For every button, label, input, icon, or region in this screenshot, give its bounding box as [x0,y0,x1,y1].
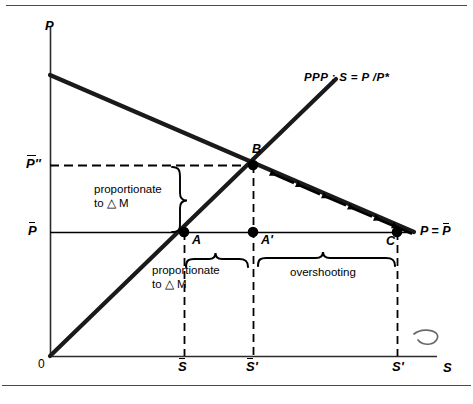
point-b-marker [248,160,259,171]
ppp-line [50,79,336,356]
horizontal-brace-overshooting [258,252,395,266]
money-market-line [50,75,414,232]
horizontal-brace-proportionate [186,253,248,267]
adjustment-arrows [274,174,412,234]
point-a-prime-marker [248,227,259,238]
point-c-marker [392,227,403,238]
figure-container: P S 0 P'' P S S' S' PPP : S = P /P* A A'… [0,0,473,404]
vertical-brace [172,167,187,232]
diagram-canvas [0,0,473,404]
handwritten-curl-mark [414,330,438,344]
